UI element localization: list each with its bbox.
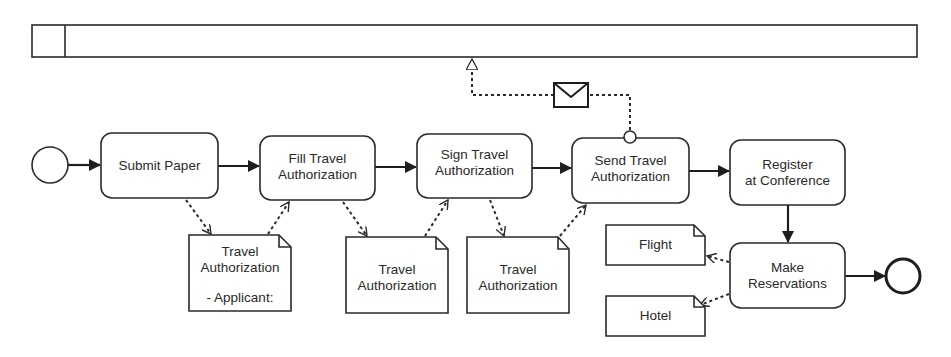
data-object-flight[interactable] bbox=[606, 225, 705, 265]
envelope-icon bbox=[554, 83, 588, 107]
task-fill-travel-authorization[interactable] bbox=[260, 136, 375, 200]
data-object-travel-authorization-3[interactable] bbox=[467, 237, 569, 313]
data-objects bbox=[189, 225, 705, 336]
task-send-travel-authorization[interactable] bbox=[572, 138, 689, 203]
message-intermediate-event[interactable] bbox=[624, 131, 636, 143]
data-object-hotel[interactable] bbox=[606, 296, 705, 336]
task-submit-paper[interactable] bbox=[101, 133, 218, 198]
pool[interactable] bbox=[32, 25, 917, 57]
task-sign-travel-authorization[interactable] bbox=[417, 134, 532, 198]
end-event[interactable] bbox=[886, 259, 920, 293]
data-object-travel-authorization-applicant[interactable] bbox=[189, 235, 291, 311]
task-make-reservations[interactable] bbox=[730, 243, 845, 308]
start-event[interactable] bbox=[32, 147, 68, 183]
task-register-at-conference[interactable] bbox=[730, 140, 845, 205]
message-flow bbox=[472, 59, 630, 130]
data-object-travel-authorization-2[interactable] bbox=[346, 237, 448, 313]
bpmn-canvas bbox=[0, 0, 951, 357]
